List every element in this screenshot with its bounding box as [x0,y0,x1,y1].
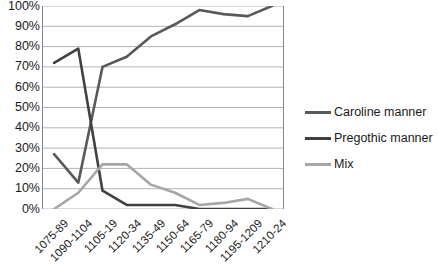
legend-swatch-icon [305,163,331,166]
legend-item[interactable]: Pregothic manner [305,125,437,151]
legend-item-label: Mix [334,158,353,171]
legend-swatch-icon [305,137,331,140]
line-chart: 100%90%80%70%60%50%40%30%20%10%0% 1075-8… [0,0,439,274]
legend-item[interactable]: Mix [305,151,437,177]
legend-swatch-icon [305,111,331,114]
legend-item[interactable]: Caroline manner [305,99,437,125]
legend-item-label: Caroline manner [334,106,426,119]
legend-item-label: Pregothic manner [334,132,433,145]
chart-legend: Caroline mannerPregothic mannerMix [305,99,437,177]
